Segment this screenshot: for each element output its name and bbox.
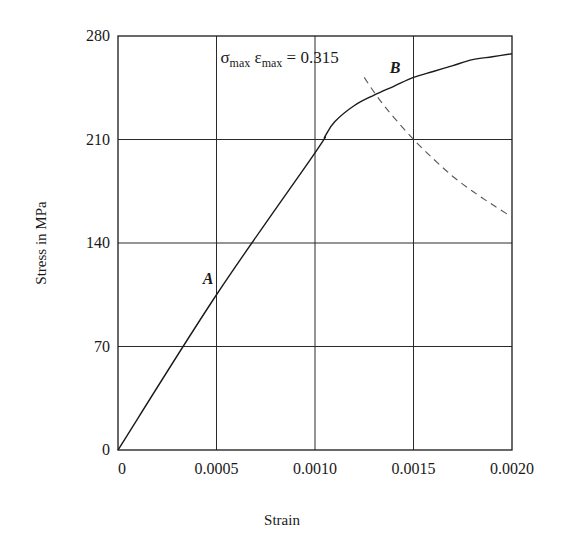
- stress-strain-chart: 00.00050.00100.00150.0020 070140210280 A…: [0, 0, 561, 542]
- x-tick-label: 0.0005: [195, 460, 239, 477]
- x-tick-labels: 00.00050.00100.00150.0020: [118, 460, 534, 477]
- y-axis-label: Stress in MPa: [33, 201, 49, 285]
- y-tick-label: 280: [86, 27, 110, 44]
- point-label-b: B: [389, 59, 401, 76]
- hyperbola-dashed-curve: [364, 77, 512, 217]
- x-tick-label: 0.0015: [392, 460, 436, 477]
- y-tick-labels: 070140210280: [86, 27, 110, 458]
- gridlines: [118, 36, 512, 450]
- annotations: ABσmax εmax = 0.315: [202, 48, 401, 288]
- y-tick-label: 210: [86, 131, 110, 148]
- x-tick-label: 0: [118, 460, 126, 477]
- y-tick-label: 0: [102, 441, 110, 458]
- y-tick-label: 70: [94, 338, 110, 355]
- x-tick-label: 0.0010: [293, 460, 337, 477]
- y-tick-label: 140: [86, 234, 110, 251]
- product-annotation: σmax εmax = 0.315: [220, 48, 338, 70]
- x-tick-label: 0.0020: [490, 460, 534, 477]
- point-label-a: A: [202, 270, 214, 287]
- x-axis-label: Strain: [264, 512, 300, 528]
